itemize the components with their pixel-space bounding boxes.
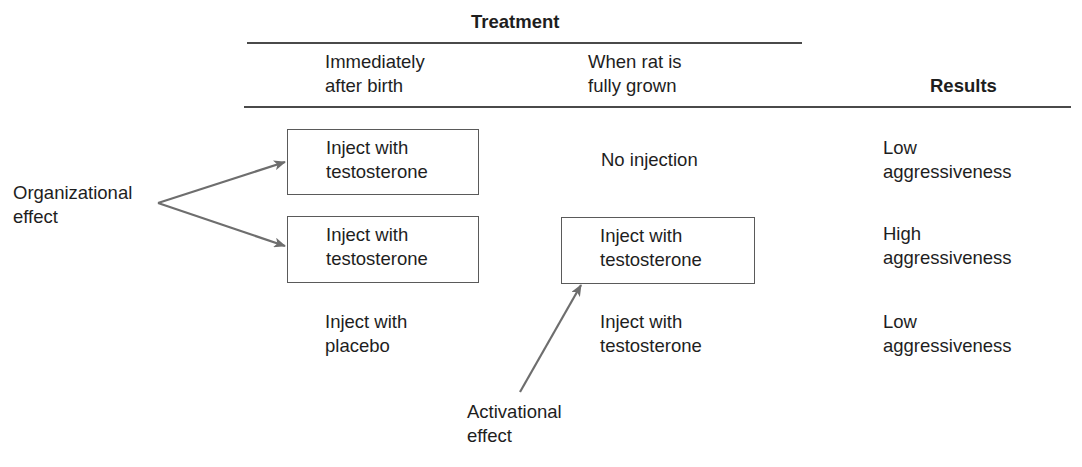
column-header-after-birth: Immediately after birth xyxy=(325,50,425,97)
organizational-effect-line2: effect xyxy=(13,205,132,229)
row3-after-birth-line2: placebo xyxy=(325,334,407,358)
row2-after-birth-line1: Inject with xyxy=(326,223,428,247)
column-header-after-birth-line1: Immediately xyxy=(325,50,425,74)
row1-fully-grown-text: No injection xyxy=(601,148,698,172)
results-header: Results xyxy=(930,74,997,98)
row3-result-line1: Low xyxy=(883,310,1012,334)
organizational-arrow-down-icon xyxy=(158,203,285,246)
row3-result-line2: aggressiveness xyxy=(883,334,1012,358)
row1-result-line1: Low xyxy=(883,136,1012,160)
activational-effect-line1: Activational xyxy=(467,400,562,424)
row2-result-line1: High xyxy=(883,222,1012,246)
column-header-fully-grown-line2: fully grown xyxy=(588,74,682,98)
column-header-after-birth-line2: after birth xyxy=(325,74,425,98)
row2-after-birth-box: Inject with testosterone xyxy=(287,216,479,283)
column-header-fully-grown-line1: When rat is xyxy=(588,50,682,74)
activational-effect-label: Activational effect xyxy=(467,400,562,447)
organizational-effect-label: Organizational effect xyxy=(13,181,132,228)
row2-after-birth-text: Inject with testosterone xyxy=(326,223,428,270)
organizational-arrow-up-icon xyxy=(158,162,285,203)
treatment-rule xyxy=(247,42,802,44)
row2-result: High aggressiveness xyxy=(883,222,1012,269)
column-header-fully-grown: When rat is fully grown xyxy=(588,50,682,97)
row2-fully-grown-line2: testosterone xyxy=(600,248,702,272)
row2-fully-grown-box: Inject with testosterone xyxy=(561,217,755,284)
organizational-effect-line1: Organizational xyxy=(13,181,132,205)
activational-arrow-icon xyxy=(520,285,581,392)
row1-result: Low aggressiveness xyxy=(883,136,1012,183)
row1-after-birth-text: Inject with testosterone xyxy=(326,136,428,183)
row3-after-birth-line1: Inject with xyxy=(325,310,407,334)
row1-after-birth-line2: testosterone xyxy=(326,160,428,184)
row2-fully-grown-text: Inject with testosterone xyxy=(600,224,702,271)
row3-fully-grown-text: Inject with testosterone xyxy=(600,310,702,357)
treatment-group-title: Treatment xyxy=(471,10,559,34)
row1-result-line2: aggressiveness xyxy=(883,160,1012,184)
activational-effect-line2: effect xyxy=(467,424,562,448)
row3-result: Low aggressiveness xyxy=(883,310,1012,357)
row2-fully-grown-line1: Inject with xyxy=(600,224,702,248)
row2-result-line2: aggressiveness xyxy=(883,246,1012,270)
row3-after-birth-text: Inject with placebo xyxy=(325,310,407,357)
row3-fully-grown-line1: Inject with xyxy=(600,310,702,334)
row1-after-birth-line1: Inject with xyxy=(326,136,428,160)
row2-after-birth-line2: testosterone xyxy=(326,247,428,271)
header-bottom-rule xyxy=(244,106,1071,108)
row1-after-birth-box: Inject with testosterone xyxy=(287,129,479,195)
row3-fully-grown-line2: testosterone xyxy=(600,334,702,358)
